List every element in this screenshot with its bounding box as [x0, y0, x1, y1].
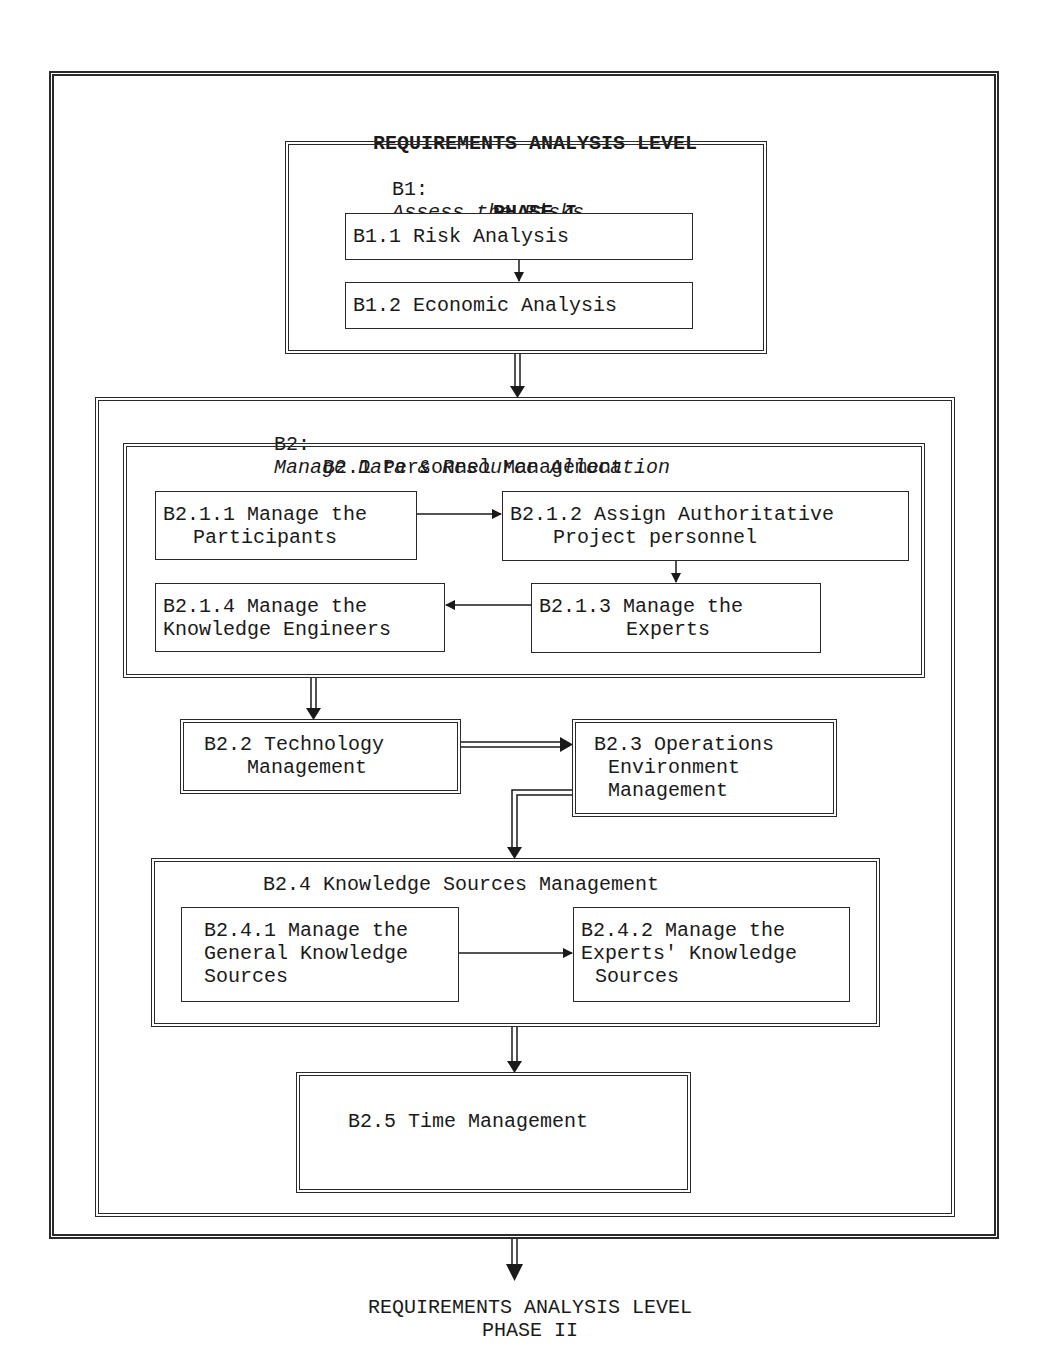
b2-4-2-line3: Sources — [595, 965, 679, 988]
b2-1-4-line1: B2.1.4 Manage the — [163, 595, 367, 618]
b2-4-2-line1: B2.4.2 Manage the — [581, 919, 785, 942]
b2-4-2-line2: Experts' Knowledge — [581, 942, 797, 965]
b1-code: B1: — [392, 178, 428, 201]
phase-two-line2: PHASE II — [290, 1319, 770, 1342]
b1-2-label: B1.2 Economic Analysis — [353, 294, 617, 317]
b2-4-1-line3: Sources — [204, 965, 288, 988]
b2-5-time-management-box: B2.5 Time Management — [296, 1072, 691, 1193]
b2-1-3-manage-experts-box: B2.1.3 Manage the Experts — [531, 583, 821, 653]
phase-two-line1: REQUIREMENTS ANALYSIS LEVEL — [290, 1296, 770, 1319]
b2-4-1-line2: General Knowledge — [204, 942, 408, 965]
b2-1-4-manage-knowledge-engineers-box: B2.1.4 Manage the Knowledge Engineers — [155, 583, 445, 652]
b2-1-3-line1: B2.1.3 Manage the — [539, 595, 743, 618]
b2-1-1-line2: Participants — [193, 526, 337, 549]
b2-4-1-line1: B2.4.1 Manage the — [204, 919, 408, 942]
b2-1-title: B2.1 Personnel Management — [323, 456, 623, 479]
b2-1-3-line2: Experts — [626, 618, 710, 641]
b2-3-line1: B2.3 Operations — [594, 733, 774, 756]
b2-2-line2: Management — [247, 756, 367, 779]
b2-2-line1: B2.2 Technology — [204, 733, 384, 756]
b2-3-operations-environment-box: B2.3 Operations Environment Management — [572, 719, 837, 817]
b2-2-technology-management-box: B2.2 Technology Management — [180, 719, 461, 794]
b2-5-label: B2.5 Time Management — [348, 1110, 588, 1133]
b2-3-line3: Management — [608, 779, 728, 802]
b2-4-title: B2.4 Knowledge Sources Management — [263, 873, 659, 896]
b1-1-label: B1.1 Risk Analysis — [353, 225, 569, 248]
b2-1-1-manage-participants-box: B2.1.1 Manage the Participants — [155, 491, 417, 560]
b2-1-4-line2: Knowledge Engineers — [163, 618, 391, 641]
b2-1-1-line1: B2.1.1 Manage the — [163, 503, 367, 526]
arrow-phase1-to-phase2 — [506, 1264, 523, 1281]
phase-two-label: REQUIREMENTS ANALYSIS LEVEL PHASE II — [290, 1296, 770, 1342]
b1-1-risk-analysis-box: B1.1 Risk Analysis — [345, 213, 693, 260]
b2-1-2-line1: B2.1.2 Assign Authoritative — [510, 503, 834, 526]
b2-4-2-experts-knowledge-box: B2.4.2 Manage the Experts' Knowledge Sou… — [573, 907, 850, 1002]
b2-1-2-line2: Project personnel — [553, 526, 757, 549]
b2-1-2-assign-personnel-box: B2.1.2 Assign Authoritative Project pers… — [502, 491, 909, 561]
b2-3-line2: Environment — [608, 756, 740, 779]
b2-4-1-general-knowledge-box: B2.4.1 Manage the General Knowledge Sour… — [181, 907, 459, 1002]
b1-2-economic-analysis-box: B1.2 Economic Analysis — [345, 282, 693, 329]
